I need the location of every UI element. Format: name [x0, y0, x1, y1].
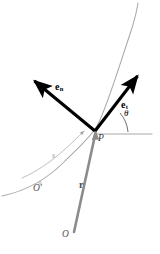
normal-unit-vector: [35, 81, 96, 131]
position-vector: [74, 133, 96, 232]
physics-diagram: et en r P O O′ s θ: [0, 0, 160, 254]
arc-length-label: s: [52, 152, 55, 160]
normal-vector-subscript: n: [60, 85, 64, 92]
normal-vector-label: en: [55, 82, 63, 93]
normal-vector-symbol: e: [55, 81, 59, 92]
point-p-label: P: [98, 134, 104, 144]
reference-o-prime-label: O′: [33, 184, 42, 194]
diagram-canvas: [0, 0, 160, 254]
position-vector-label: r: [79, 180, 83, 190]
origin-o-label: O: [62, 230, 69, 240]
tangent-unit-vector: [95, 76, 138, 131]
angle-theta-label: θ: [124, 109, 128, 118]
